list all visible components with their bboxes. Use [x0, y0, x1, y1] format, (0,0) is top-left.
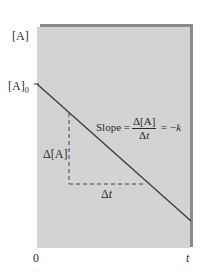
- slope-denominator: Δt: [132, 129, 156, 141]
- x-origin-label: 0: [33, 252, 39, 264]
- y-intercept-label: [A]0: [8, 80, 29, 95]
- delta-time-label: Δt: [101, 188, 112, 200]
- slope-numerator: Δ[A]: [132, 116, 156, 129]
- slope-equals: = −k: [158, 121, 181, 133]
- slope-text: Slope =: [96, 121, 130, 133]
- delta-concentration-label: Δ[A]: [43, 148, 67, 160]
- y-axis-label: [A]: [12, 30, 29, 42]
- delta-time-text: Δt: [101, 187, 112, 201]
- x-axis-label: t: [186, 252, 189, 264]
- y-intercept-label-main: [A]: [8, 79, 25, 93]
- slope-equation: Slope =Δ[A]Δt = −k: [96, 116, 181, 141]
- y-intercept-label-subscript: 0: [25, 86, 29, 95]
- slope-fraction: Δ[A]Δt: [132, 116, 156, 141]
